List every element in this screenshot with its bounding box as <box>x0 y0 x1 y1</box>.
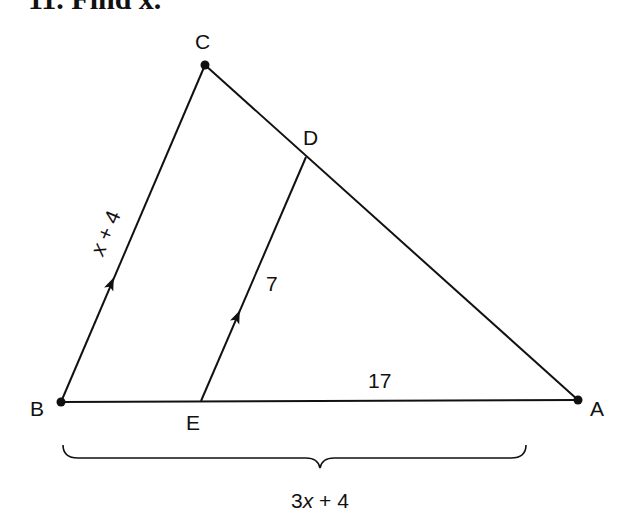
brace-ba <box>63 445 526 468</box>
label-e: E <box>186 411 200 434</box>
segment-ed <box>201 157 306 401</box>
label-d: D <box>303 126 318 149</box>
segment-ba <box>61 400 578 402</box>
label-ba-length: 3x + 4 <box>291 489 349 512</box>
label-ea-length: 17 <box>368 369 391 392</box>
point-c-dot <box>201 61 210 70</box>
label-c: C <box>195 30 210 53</box>
label-b: B <box>30 397 44 420</box>
similar-triangles-diagram: C D B E A x + 4 7 17 3x + 4 <box>0 0 629 526</box>
label-a: A <box>590 397 604 420</box>
parallel-arrow-icon <box>230 309 244 325</box>
point-b-dot <box>57 398 66 407</box>
parallel-arrow-icon <box>104 276 118 292</box>
point-a-dot <box>574 396 583 405</box>
label-bc-length: x + 4 <box>85 207 125 260</box>
label-ed-length: 7 <box>266 272 278 295</box>
segment-ca <box>205 65 578 400</box>
label-bc-rest: + 4 <box>90 207 125 249</box>
segment-bc <box>61 65 205 402</box>
